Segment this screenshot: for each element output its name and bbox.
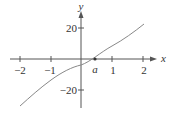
root-label: a [92, 63, 98, 75]
x-axis-label: x [160, 52, 166, 64]
function-graph: −2 −1 1 2 20 −20 x y a [0, 0, 173, 113]
x-axis-arrow-icon [150, 57, 157, 62]
x-tick-label: 2 [141, 64, 147, 76]
y-axis-label: y [78, 0, 84, 12]
y-tick-label: 20 [66, 22, 78, 34]
x-tick-label: 1 [110, 64, 116, 76]
x-tick-label: −2 [14, 64, 26, 76]
y-axis-arrow-icon [79, 11, 84, 18]
x-tick-label: −1 [44, 64, 56, 76]
function-curve [20, 24, 144, 106]
y-tick-label: −20 [60, 84, 78, 96]
root-point-marker [93, 57, 96, 60]
